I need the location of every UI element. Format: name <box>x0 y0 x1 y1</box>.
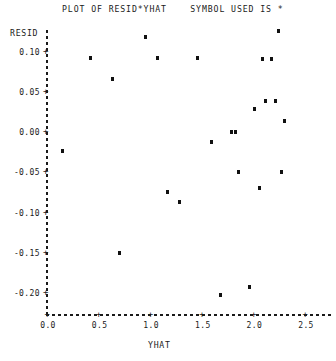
x-tick-mark: + <box>148 310 153 319</box>
data-point <box>280 170 283 174</box>
scatter-plot: PLOT OF RESID*YHAT SYMBOL USED IS * RESI… <box>0 0 336 361</box>
data-point <box>166 190 169 194</box>
x-tick-label: 0.0 <box>38 321 58 330</box>
y-tick-label: 0.00 <box>0 128 40 137</box>
x-tick-mark: + <box>96 310 101 319</box>
y-tick-label: 0.05 <box>0 88 40 97</box>
data-point <box>270 57 273 61</box>
y-tick-mark: + <box>43 127 48 136</box>
data-point <box>283 119 286 123</box>
data-point <box>264 99 267 103</box>
data-point <box>274 99 277 103</box>
page-title: PLOT OF RESID*YHAT SYMBOL USED IS * <box>62 5 284 14</box>
data-point <box>210 140 213 144</box>
y-axis-title: RESID <box>10 29 38 38</box>
data-point <box>237 170 240 174</box>
y-tick-mark: + <box>43 47 48 56</box>
y-tick-mark: + <box>43 208 48 217</box>
data-point <box>230 130 233 134</box>
data-point <box>277 29 280 33</box>
x-axis-line <box>46 314 332 316</box>
x-tick-mark: + <box>199 310 204 319</box>
x-tick-label: 1.5 <box>193 321 213 330</box>
y-tick-label: -0.05 <box>0 168 40 177</box>
data-point <box>118 251 121 255</box>
y-tick-mark: + <box>43 288 48 297</box>
x-tick-label: 2.0 <box>244 321 264 330</box>
data-point <box>219 293 222 297</box>
data-point <box>196 56 199 60</box>
y-tick-label: -0.15 <box>0 249 40 258</box>
x-tick-label: 2.5 <box>296 321 316 330</box>
y-tick-label: 0.10 <box>0 48 40 57</box>
y-tick-mark: + <box>43 167 48 176</box>
data-point <box>234 130 237 134</box>
data-point <box>248 285 251 289</box>
data-point <box>178 200 181 204</box>
data-point <box>61 149 64 153</box>
x-tick-label: 0.5 <box>90 321 110 330</box>
x-tick-mark: + <box>251 310 256 319</box>
x-tick-mark: + <box>45 310 50 319</box>
y-tick-label: -0.10 <box>0 209 40 218</box>
x-axis-title: YHAT <box>148 341 171 350</box>
data-point <box>253 107 256 111</box>
y-tick-mark: + <box>43 87 48 96</box>
data-point <box>261 57 264 61</box>
data-point <box>89 56 92 60</box>
data-point <box>144 35 147 39</box>
y-tick-mark: + <box>43 248 48 257</box>
data-point <box>258 186 261 190</box>
data-point <box>111 77 114 81</box>
x-tick-mark: + <box>303 310 308 319</box>
y-tick-label: -0.20 <box>0 289 40 298</box>
data-point <box>156 56 159 60</box>
x-tick-label: 1.0 <box>141 321 161 330</box>
